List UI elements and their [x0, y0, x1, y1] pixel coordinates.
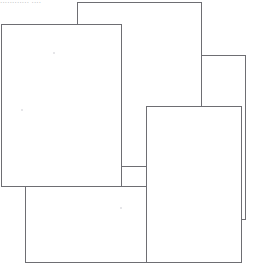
scanned-document-canvas: ............ .... [0, 0, 261, 270]
clipped-header-text: ............ .... [0, 0, 56, 5]
page-bottom-left [25, 186, 147, 263]
page-left [1, 24, 122, 187]
page-bottom-middle [146, 106, 242, 263]
clipped-header-text-line: ............ .... [0, 0, 56, 5]
